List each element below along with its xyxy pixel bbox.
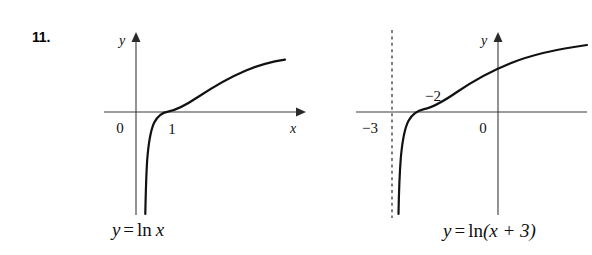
caption-equals: = xyxy=(452,220,469,241)
caption-function-name: ln xyxy=(137,219,152,240)
graph-svg-ln-x: y x 0 1 xyxy=(0,0,320,215)
caption-ln-x: y=ln x xyxy=(0,219,298,241)
caption-lhs: y xyxy=(443,220,451,241)
origin-label: 0 xyxy=(116,120,124,136)
caption-argument: x xyxy=(156,219,164,240)
y-axis-arrowhead xyxy=(494,32,503,42)
asymptote-label-minus-three: −3 xyxy=(362,120,378,136)
y-axis-label: y xyxy=(479,33,488,48)
x-intercept-label-one: 1 xyxy=(168,121,176,137)
graph-svg-ln-x-plus-3: y −3 −2 0 xyxy=(320,0,587,215)
curve-ln-x xyxy=(145,60,285,214)
curve-ln-x-plus-3 xyxy=(399,45,588,214)
y-axis-arrowhead xyxy=(132,32,141,42)
origin-label: 0 xyxy=(479,120,487,136)
caption-argument: (x + 3) xyxy=(483,220,536,241)
y-axis-label: y xyxy=(117,33,126,48)
x-intercept-label-minus-two: −2 xyxy=(425,88,441,104)
caption-equals: = xyxy=(120,219,137,240)
graph-panel-ln-x: y x 0 1 y=ln x xyxy=(0,0,320,255)
graph-panel-ln-x-plus-3: y −3 −2 0 y=ln(x + 3) xyxy=(320,0,587,255)
caption-function-name: ln xyxy=(468,220,483,241)
x-axis-arrowhead xyxy=(296,108,306,117)
caption-ln-x-plus-3: y=ln(x + 3) xyxy=(356,220,592,242)
x-axis-label: x xyxy=(289,121,297,136)
